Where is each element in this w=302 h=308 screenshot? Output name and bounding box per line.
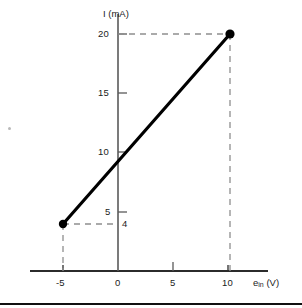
y-tick-label-10: 10 xyxy=(98,146,109,157)
data-line xyxy=(63,34,230,224)
x-axis-title-subscript: in xyxy=(258,281,263,288)
y-tick-label-20: 20 xyxy=(98,28,109,39)
page-bottom-rule xyxy=(0,303,302,305)
plot-canvas xyxy=(0,0,302,308)
y-tick-label-15: 15 xyxy=(98,87,109,98)
x-tick-label-neg5: -5 xyxy=(56,277,65,288)
x-axis-title-unit: (V) xyxy=(266,277,279,288)
y-tick-label-5: 5 xyxy=(105,206,110,217)
graph-figure: I (mA) 20 15 10 5 4 -5 0 5 10 ein (V) xyxy=(0,0,302,308)
x-tick-label-5: 5 xyxy=(170,277,175,288)
scan-artifact-speck xyxy=(8,127,11,130)
x-tick-label-10: 10 xyxy=(222,277,233,288)
data-point-lower xyxy=(59,220,67,228)
x-tick-label-0: 0 xyxy=(115,277,120,288)
annotation-label-4: 4 xyxy=(122,218,127,229)
y-axis-title: I (mA) xyxy=(103,8,129,19)
x-axis-title: ein (V) xyxy=(253,277,279,288)
data-point-upper xyxy=(225,29,234,38)
